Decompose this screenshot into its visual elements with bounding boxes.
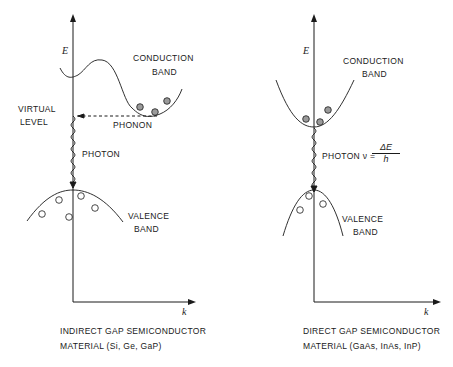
right-energy-axis-label: E	[303, 45, 309, 57]
left-conduction-band-label-line2: BAND	[152, 66, 177, 78]
right-caption-line1: DIRECT GAP SEMICONDUCTOR	[303, 325, 440, 337]
right-electrons	[303, 107, 332, 126]
left-k-axis-label: k	[182, 306, 187, 318]
formula-numerator: ΔE	[372, 142, 400, 154]
left-holes	[39, 193, 99, 221]
virtual-level-label-line2: LEVEL	[20, 116, 48, 128]
virtual-level-label-line1: VIRTUAL	[18, 103, 56, 115]
left-valence-band-label-line1: VALENCE	[128, 210, 169, 222]
right-conduction-band-label-line1: CONDUCTION	[343, 55, 404, 67]
right-caption-line2: MATERIAL (GaAs, InAs, InP)	[303, 340, 421, 352]
right-holes	[297, 193, 327, 214]
right-valence-band-curve	[283, 190, 343, 236]
right-conduction-band-label-line2: BAND	[362, 68, 387, 80]
left-energy-axis-label: E	[62, 45, 68, 57]
right-k-axis-label: k	[424, 306, 429, 318]
photon-energy-formula: ΔE h	[372, 142, 400, 165]
right-conduction-band-curve	[276, 80, 354, 127]
left-electrons	[137, 98, 171, 116]
left-caption-line1: INDIRECT GAP SEMICONDUCTOR	[60, 325, 206, 337]
left-caption-line2: MATERIAL (Si, Ge, GaP)	[60, 340, 162, 352]
formula-denominator: h	[372, 154, 400, 165]
left-photon-label: PHOTON	[82, 148, 120, 160]
right-valence-band-label-line2: BAND	[353, 226, 378, 238]
phonon-label: PHONON	[113, 119, 152, 131]
left-valence-band-label-line2: BAND	[134, 223, 159, 235]
right-photon-label: PHOTON ν =	[322, 150, 375, 162]
left-conduction-band-label-line1: CONDUCTION	[133, 52, 194, 64]
right-valence-band-label-line1: VALENCE	[342, 213, 383, 225]
